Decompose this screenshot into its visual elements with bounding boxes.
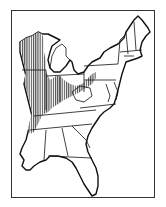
eastern-us-range-map — [0, 0, 166, 207]
